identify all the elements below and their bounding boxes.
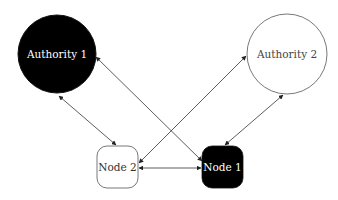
edge-authority1-node1 — [96, 57, 202, 161]
edge-authority2-node1 — [225, 95, 283, 145]
network-diagram: Authority 1 Authority 2 Node 2 Node 1 — [0, 0, 338, 200]
authority-1-label: Authority 1 — [26, 48, 87, 60]
node-node-2: Node 2 — [97, 146, 138, 188]
edge-authority1-node2 — [59, 96, 116, 145]
node-node-1: Node 1 — [202, 146, 243, 188]
node-authority-2: Authority 2 — [247, 14, 327, 94]
authority-2-label: Authority 2 — [256, 48, 317, 60]
diagram-canvas: Authority 1 Authority 2 Node 2 Node 1 — [0, 0, 338, 200]
node-2-label: Node 2 — [98, 161, 136, 173]
node-1-label: Node 1 — [203, 161, 241, 173]
node-authority-1: Authority 1 — [18, 15, 96, 93]
edges — [59, 56, 283, 168]
